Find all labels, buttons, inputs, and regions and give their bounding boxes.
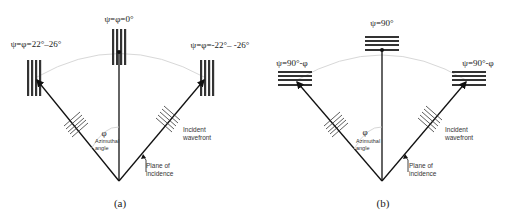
grating-left-icon [278, 71, 312, 86]
label-right: ψ=φ=-22°– -26° [191, 40, 250, 50]
plane-label-2: incidence [146, 170, 174, 177]
plane-label-2: incidence [409, 170, 437, 177]
phi-label: φ [101, 128, 106, 138]
wavefront-right-icon [418, 106, 442, 132]
wavefront-right-icon [156, 106, 180, 132]
panel-a: ψ=φ=0° ψ=φ=22°–26° ψ=φ=-22°– -26° φ Azim… [11, 14, 250, 210]
diagram-canvas: ψ=φ=0° ψ=φ=22°–26° ψ=φ=-22°– -26° φ Azim… [0, 0, 515, 219]
grating-right-icon [452, 71, 486, 86]
panel-caption-b: (b) [377, 197, 390, 210]
azimuthal-label-2: angle [95, 145, 108, 151]
wavefront-label-1: Incident [183, 126, 206, 133]
azimuthal-label-1: Azimuthal [95, 138, 119, 144]
grating-right-icon [200, 60, 214, 96]
plane-label-1: Plane of [146, 162, 170, 169]
wavefront-left-icon [324, 112, 348, 137]
plane-label-1: Plane of [409, 162, 433, 169]
wavefront-label-2: wavefront [182, 134, 211, 141]
label-right: ψ=90°-φ [462, 58, 494, 68]
wavefront-left-icon [64, 112, 88, 137]
panel-b: ψ=90° ψ=90°-φ ψ=90°-φ φ Azimuthal angle … [276, 18, 494, 210]
label-left: ψ=90°-φ [276, 58, 308, 68]
azimuthal-label-1: Azimuthal [356, 138, 380, 144]
grating-left-icon [27, 60, 41, 96]
azimuthal-label-2: angle [356, 145, 369, 151]
center-dot [380, 48, 384, 52]
left-arrow [297, 82, 382, 181]
center-dot [117, 50, 121, 54]
panel-caption-a: (a) [114, 197, 127, 210]
label-center: ψ=90° [370, 18, 394, 28]
wavefront-label-2: wavefront [444, 134, 473, 141]
label-center: ψ=φ=0° [104, 14, 133, 24]
phi-label: φ [362, 127, 367, 137]
wavefront-label-1: Incident [445, 126, 468, 133]
label-left: ψ=φ=22°–26° [11, 39, 62, 49]
